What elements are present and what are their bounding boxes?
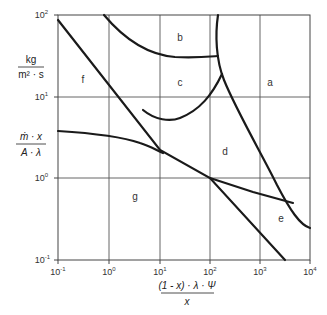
flow-regime-chart: 102 101 100 10-1 10-1 100 101 102 103 10…: [0, 0, 327, 315]
plot-frame: [58, 15, 310, 260]
region-d: d: [222, 146, 228, 157]
region-labels: a b c d e f g: [82, 32, 285, 224]
svg-text:100: 100: [35, 172, 49, 183]
x-tick-labels: 10-1 100 101 102 103 104: [50, 266, 317, 277]
boundary-a-left: [216, 15, 310, 228]
svg-text:104: 104: [303, 266, 317, 277]
svg-text:(1 - x) · λ · Ψ: (1 - x) · λ · Ψ: [158, 280, 216, 291]
region-b: b: [177, 32, 183, 43]
svg-text:A · λ: A · λ: [20, 147, 41, 158]
svg-text:100: 100: [102, 266, 116, 277]
svg-text:101: 101: [153, 266, 167, 277]
region-g: g: [132, 191, 138, 202]
y-axis-label: kg m² · s ṁ · x A · λ: [16, 54, 46, 158]
svg-text:10-1: 10-1: [35, 254, 51, 265]
region-f: f: [82, 74, 85, 85]
regime-boundaries: [58, 15, 310, 260]
region-c: c: [178, 77, 183, 88]
region-a: a: [267, 77, 273, 88]
svg-text:ṁ · x: ṁ · x: [20, 131, 43, 142]
svg-text:kg: kg: [26, 54, 37, 65]
svg-text:10-1: 10-1: [50, 266, 66, 277]
grid: [58, 15, 310, 260]
boundary-b-curve: [104, 15, 218, 57]
svg-text:102: 102: [35, 9, 49, 20]
svg-text:102: 102: [203, 266, 217, 277]
svg-text:103: 103: [253, 266, 267, 277]
svg-text:m² · s: m² · s: [18, 69, 44, 80]
svg-text:101: 101: [35, 91, 49, 102]
region-e: e: [278, 213, 284, 224]
svg-text:x: x: [184, 296, 191, 307]
x-axis-label: (1 - x) · λ · Ψ x: [158, 280, 216, 307]
